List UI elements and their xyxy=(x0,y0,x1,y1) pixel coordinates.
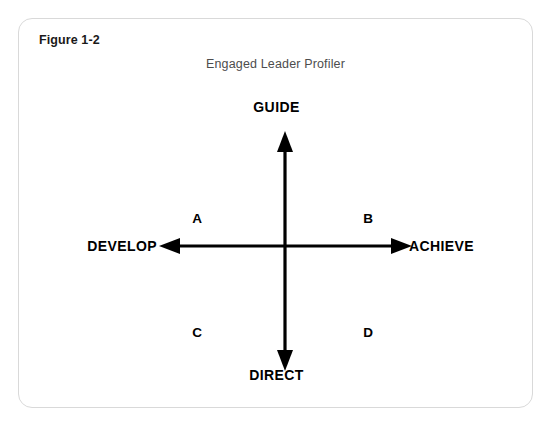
axis-label-achieve: ACHIEVE xyxy=(409,238,519,254)
axis-label-develop: DEVELOP xyxy=(67,238,157,254)
figure-card: Figure 1-2 Engaged Leader Profiler GUIDE… xyxy=(18,18,533,408)
quadrant-plot-area: GUIDE DIRECT DEVELOP ACHIEVE A B C D xyxy=(19,19,534,409)
figure-page: Figure 1-2 Engaged Leader Profiler GUIDE… xyxy=(0,0,560,430)
arrow-left-icon xyxy=(159,238,180,254)
quadrant-letter-d: D xyxy=(358,325,378,340)
quadrant-letter-c: C xyxy=(187,325,207,340)
axis-label-guide: GUIDE xyxy=(19,99,534,115)
quadrant-axes-svg xyxy=(19,19,534,409)
axis-label-direct: DIRECT xyxy=(19,367,534,383)
quadrant-letter-a: A xyxy=(187,211,207,226)
arrow-up-icon xyxy=(277,131,293,152)
quadrant-letter-b: B xyxy=(358,211,378,226)
